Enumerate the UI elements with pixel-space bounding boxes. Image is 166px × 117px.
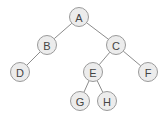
edge-c-f: [123, 51, 140, 66]
edges-layer: [27, 23, 141, 93]
node-label: F: [145, 67, 152, 79]
binary-tree-diagram: ABCDEFGH: [0, 0, 166, 117]
edge-e-h: [97, 81, 103, 93]
tree-node-c: C: [107, 36, 126, 55]
tree-node-b: B: [38, 36, 57, 55]
edge-a-c: [87, 23, 109, 40]
node-label: H: [103, 96, 111, 108]
node-label: E: [89, 67, 96, 79]
node-label: A: [75, 12, 83, 24]
node-label: D: [16, 67, 24, 79]
tree-node-a: A: [70, 8, 89, 27]
node-label: G: [76, 96, 85, 108]
node-label: C: [112, 40, 120, 52]
edge-e-g: [84, 81, 89, 93]
node-label: B: [43, 40, 50, 52]
edge-c-e: [99, 52, 110, 65]
tree-node-h: H: [98, 92, 117, 111]
edge-b-d: [27, 52, 41, 66]
tree-node-e: E: [84, 63, 103, 82]
tree-node-g: G: [71, 92, 90, 111]
tree-node-f: F: [139, 63, 158, 82]
edge-a-b: [54, 23, 72, 38]
tree-node-d: D: [11, 63, 30, 82]
